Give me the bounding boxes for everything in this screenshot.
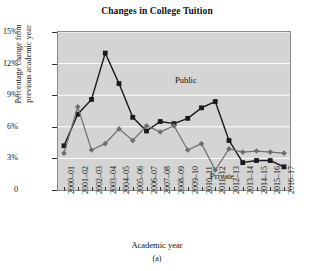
- data-point-marker: [185, 116, 190, 121]
- data-point-marker: [103, 51, 108, 56]
- x-axis-tick-label: 2012–13: [232, 166, 241, 194]
- data-point-marker: [75, 104, 81, 110]
- x-axis-tick-label: 2004–05: [122, 166, 131, 194]
- y-axis-tick-label: 12%: [0, 59, 18, 68]
- x-axis-tick-label: 2009–10: [191, 166, 200, 194]
- x-axis-label: Academic year: [0, 240, 314, 250]
- data-point-marker: [61, 150, 67, 156]
- x-axis-tick-label: 2011–12: [218, 166, 227, 194]
- y-axis-label-line-2: previous academic year: [24, 0, 34, 144]
- x-axis-tick-label: 2013–14: [246, 166, 255, 194]
- x-axis-tick-mark: [229, 187, 230, 191]
- y-axis-tick-mark: [52, 32, 57, 33]
- data-point-marker: [185, 147, 191, 153]
- x-axis-tick-mark: [270, 187, 271, 191]
- x-axis-tick-mark: [160, 187, 161, 191]
- data-point-marker: [240, 149, 246, 155]
- figure-caption: (a): [0, 254, 314, 263]
- x-axis-tick-mark: [284, 187, 285, 191]
- data-point-marker: [130, 115, 135, 120]
- data-point-marker: [199, 141, 205, 147]
- x-axis-tick-label: 2003–04: [109, 166, 118, 194]
- y-axis-tick-mark: [52, 64, 57, 65]
- data-point-marker: [282, 164, 287, 169]
- x-axis-tick-label: 2008–09: [177, 166, 186, 194]
- data-point-marker: [89, 147, 95, 153]
- y-axis-tick-mark: [52, 190, 57, 191]
- data-point-marker: [254, 158, 259, 163]
- x-axis-tick-mark: [78, 187, 79, 191]
- y-axis-tick-label: 9%: [0, 90, 18, 99]
- x-axis-tick-label: 2002–03: [95, 166, 104, 194]
- x-axis-tick-mark: [92, 187, 93, 191]
- data-point-marker: [89, 97, 94, 102]
- y-axis-tick-mark: [52, 95, 57, 96]
- data-point-marker: [281, 150, 287, 156]
- series-line-public: [64, 53, 284, 167]
- x-axis-tick-mark: [119, 187, 120, 191]
- x-axis-tick-label: 2016–17: [287, 166, 296, 194]
- chart-canvas: [58, 32, 290, 190]
- data-point-marker: [254, 148, 260, 154]
- data-point-marker: [267, 149, 273, 155]
- x-axis-tick-mark: [64, 187, 65, 191]
- data-point-marker: [199, 105, 204, 110]
- x-axis-tick-mark: [174, 187, 175, 191]
- x-axis-tick-label: 2000–01: [67, 166, 76, 194]
- data-point-marker: [268, 158, 273, 163]
- x-axis-tick-mark: [202, 187, 203, 191]
- y-axis-tick-label: 3%: [0, 153, 18, 162]
- series-annotation-public: Public: [175, 75, 197, 85]
- x-axis-tick-label: 2015–16: [273, 166, 282, 194]
- x-axis-tick-mark: [133, 187, 134, 191]
- figure-container: Changes in College Tuition Percentage ch…: [0, 0, 314, 271]
- x-axis-tick-mark: [105, 187, 106, 191]
- y-axis-tick-label: 6%: [0, 122, 18, 131]
- x-axis-tick-label: 2005–06: [136, 166, 145, 194]
- series-line-private: [64, 107, 284, 170]
- data-point-marker: [158, 119, 163, 124]
- x-axis-tick-mark: [243, 187, 244, 191]
- chart-title: Changes in College Tuition: [0, 6, 314, 16]
- y-axis-tick-label: 15%: [0, 27, 18, 36]
- data-point-marker: [117, 81, 122, 86]
- x-axis-tick-label: 2001–02: [81, 166, 90, 194]
- x-axis-tick-label: 2014–15: [260, 166, 269, 194]
- y-axis-tick-mark: [52, 158, 57, 159]
- plot-area: Public Private: [57, 31, 291, 191]
- x-axis-tick-mark: [147, 187, 148, 191]
- x-axis-tick-mark: [215, 187, 216, 191]
- data-point-marker: [144, 129, 149, 134]
- y-axis-tick-label: 0: [0, 185, 18, 194]
- x-axis-tick-label: 2007–08: [163, 166, 172, 194]
- x-axis-tick-mark: [188, 187, 189, 191]
- x-axis-tick-label: 2006–07: [150, 166, 159, 194]
- y-axis-tick-mark: [52, 127, 57, 128]
- x-axis-tick-mark: [257, 187, 258, 191]
- data-point-marker: [240, 160, 245, 165]
- data-point-marker: [227, 138, 232, 143]
- x-axis-tick-label: 2010–11: [205, 166, 214, 194]
- data-point-marker: [157, 129, 163, 135]
- data-point-marker: [213, 99, 218, 104]
